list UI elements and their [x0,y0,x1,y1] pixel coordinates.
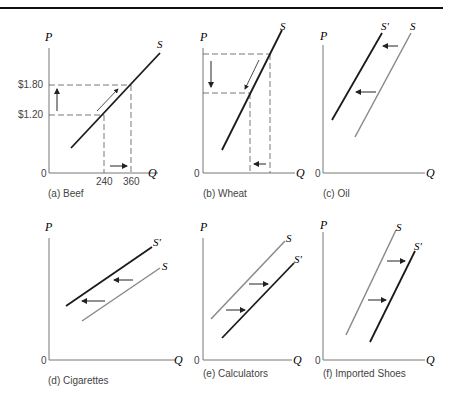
price-tick-180: $1.80 [18,79,43,90]
x-axis-label: Q [426,166,435,180]
curve-label-s-prime: S' [294,253,303,265]
origin-label: 0 [315,355,321,366]
panel-caption: (d) Cigarettes [48,375,109,386]
y-axis-label: P [319,218,328,232]
y-axis-label: P [44,30,53,44]
panel-imported-shoes: P 0 Q S S' (f) Imported Shoes [315,218,435,379]
panel-beef: P 0 S $1.80 $1.20 240 360 (a) Beef [18,30,163,199]
y-axis-label: P [319,29,328,43]
supply-curve-s-prime [222,263,294,338]
supply-curve-s [346,230,396,335]
supply-curve-s [222,30,282,150]
y-axis-label: P [199,220,208,234]
x-axis-label-a: Q [148,166,157,180]
curve-label-s: S [157,38,163,50]
y-axis-label: P [44,220,53,234]
panel-caption: (f) Imported Shoes [323,368,406,379]
panel-calculators: P 0 Q Q S S' (e) Calculators [174,220,303,379]
curve-label-s: S [162,260,168,272]
price-tick-120: $1.20 [18,109,43,120]
supply-curve-s-prime [370,251,415,342]
origin-label: 0 [194,168,200,179]
supply-curve-s [355,33,411,137]
curve-label-s: S [396,221,402,233]
supply-curve-s [82,268,160,321]
curve-label-s-prime: S' [414,240,423,252]
origin-label: 0 [41,168,47,179]
x-axis-label-d: Q [174,353,183,367]
x-axis-label: Q [426,353,435,367]
supply-curve-s [211,241,285,319]
x-axis-label: Q [296,166,305,180]
panel-wheat: P 0 Q Q S (b) Wheat [148,20,305,199]
panel-cigarettes: P 0 S' S (d) Cigarettes [41,220,175,386]
qty-tick-360: 360 [123,176,140,187]
panel-caption: (e) Calculators [203,368,268,379]
supply-shift-figure: P 0 S $1.80 $1.20 240 360 (a) Beef P 0 Q… [0,0,453,396]
along-curve-arrow-icon [245,60,259,89]
curve-label-s-prime: S' [153,236,162,248]
panel-caption: (a) Beef [48,188,84,199]
x-axis-label: Q [293,353,302,367]
y-axis-label: P [199,30,208,44]
origin-label: 0 [315,168,321,179]
curve-label-s: S [410,20,416,32]
origin-label: 0 [41,355,47,366]
curve-label-s: S [280,20,286,32]
curve-label-s: S [286,232,292,244]
supply-curve-s-prime [332,33,382,120]
supply-curve-s-prime [66,247,152,306]
supply-curve-s [71,53,160,148]
curve-label-s-prime: S' [381,20,390,32]
origin-label: 0 [194,355,200,366]
panel-oil: P 0 Q S' S (c) Oil [315,20,435,199]
qty-tick-240: 240 [96,176,113,187]
panel-caption: (c) Oil [323,188,350,199]
panel-caption: (b) Wheat [203,188,247,199]
